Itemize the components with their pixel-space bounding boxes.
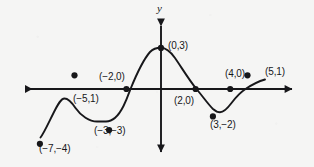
label-neg3-neg3: (−3,−3): [94, 125, 126, 136]
label-4-0: (4,0): [225, 68, 245, 79]
data-point: [244, 72, 250, 78]
label-0-3: (0,3): [168, 40, 188, 51]
label-neg2-0: (−2,0): [99, 71, 125, 82]
data-point: [123, 86, 129, 92]
label-3-neg2: (3,−2): [210, 119, 236, 130]
label-5-1: (5,1): [265, 66, 285, 77]
coordinate-plane: [0, 0, 314, 167]
y-axis-label: y: [157, 3, 162, 14]
data-point: [158, 45, 164, 51]
data-point: [193, 86, 199, 92]
data-point: [227, 86, 233, 92]
label-2-0: (2,0): [174, 95, 194, 106]
graph-figure: y (−7,−4) (−5,1) (−3,−3) (−2,0) (0,3) (2…: [0, 0, 314, 167]
label-neg5-1: (−5,1): [73, 93, 99, 104]
label-neg7-neg4: (−7,−4): [39, 143, 71, 154]
data-point: [71, 72, 77, 78]
